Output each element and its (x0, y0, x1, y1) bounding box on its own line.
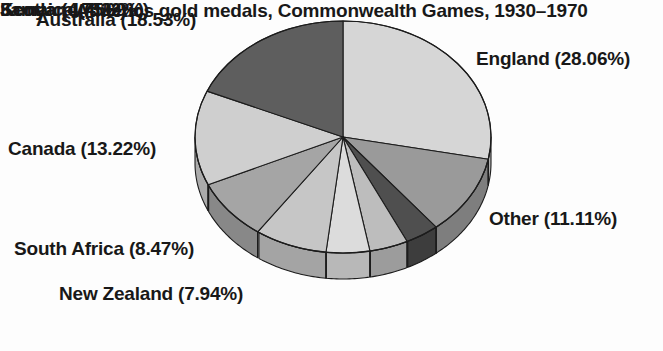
slice-label-canada: Canada (13.22%) (8, 139, 156, 159)
chart-caption: Athletics gold medals, Commonwealth Game… (0, 0, 663, 22)
pie-top-face-slices (195, 21, 491, 253)
slice-label-other: Other (11.11%) (489, 209, 617, 229)
pie-chart-figure: Australia (18.53%) England (28.06%) Cana… (0, 0, 663, 351)
slice-label-south-africa: South Africa (8.47%) (14, 239, 194, 259)
pie-slice-england (343, 21, 491, 159)
slice-label-new-zealand: New Zealand (7.94%) (59, 284, 243, 304)
slice-label-england: England (28.06%) (476, 49, 630, 69)
